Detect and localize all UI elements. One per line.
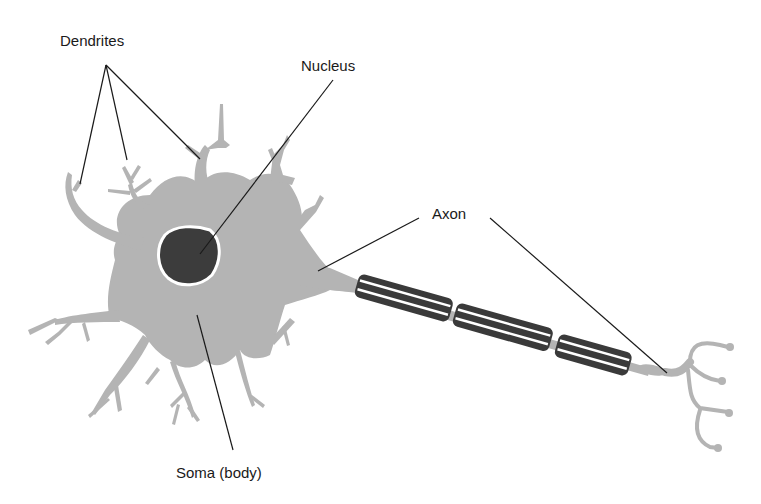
dendrites-label: Dendrites (60, 33, 124, 48)
dendrites-leader-2 (106, 65, 127, 160)
myelin-sheath (353, 273, 650, 377)
neuron-illustration (0, 0, 761, 504)
dendrites-leader-1 (80, 65, 106, 184)
neuron-diagram: Dendrites Nucleus Axon Soma (body) (0, 0, 761, 504)
dendrites-leader-3 (106, 65, 200, 159)
axon-leader-1 (318, 218, 419, 271)
nucleus-shape (159, 227, 220, 285)
axon-label: Axon (432, 206, 466, 221)
soma-label: Soma (body) (176, 465, 262, 480)
nucleus-label: Nucleus (301, 58, 355, 73)
